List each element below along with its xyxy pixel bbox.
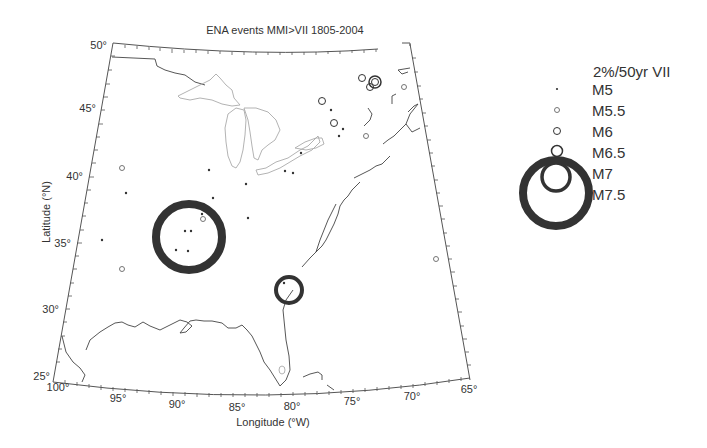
lat-label-50: 50°: [90, 39, 107, 51]
seismicity-map-figure: ENA events MMI>VII 1805-2004: [0, 0, 707, 448]
lon-label-75: 75°: [344, 395, 361, 407]
lon-label-80: 80°: [284, 400, 301, 412]
lat-label-35: 35°: [54, 237, 71, 249]
legend-symbols: [523, 88, 589, 226]
earthquake-events: [101, 75, 439, 304]
event-m7-charleston[interactable]: [276, 277, 302, 303]
event-m55[interactable]: [434, 257, 439, 262]
coastlines: [62, 57, 420, 390]
x-axis-title: Longitude (°W): [236, 416, 310, 428]
lon-label-70: 70°: [404, 390, 421, 402]
lon-label-95: 95°: [110, 392, 127, 404]
y-axis-title: Latitude (°N): [40, 181, 52, 243]
great-lakes: [178, 74, 324, 374]
event-m6[interactable]: [331, 120, 338, 127]
lon-label-100: 100°: [47, 381, 70, 393]
lon-label-90: 90°: [169, 398, 186, 410]
event-m6[interactable]: [319, 98, 326, 105]
legend-m55-symbol: [555, 108, 560, 113]
event-m55[interactable]: [120, 267, 125, 272]
legend-m75-symbol: [523, 160, 589, 226]
event-m55[interactable]: [364, 134, 369, 139]
lat-label-30: 30°: [42, 303, 59, 315]
event-m6[interactable]: [359, 75, 366, 82]
event-m75-new-madrid[interactable]: [156, 204, 222, 270]
lat-label-45: 45°: [79, 102, 96, 114]
map-frame: [53, 43, 470, 395]
lon-label-85: 85°: [229, 401, 246, 413]
legend-m6-symbol: [554, 128, 561, 135]
event-m5-dots: [101, 109, 344, 284]
legend-m5-symbol: [556, 88, 558, 90]
legend-m7-symbol: [542, 163, 570, 191]
lon-label-65: 65°: [461, 383, 478, 395]
event-m55[interactable]: [201, 217, 206, 222]
frame-ticks: [56, 45, 471, 397]
event-m55[interactable]: [402, 85, 407, 90]
event-m65[interactable]: [369, 76, 381, 88]
lat-label-40: 40°: [66, 170, 83, 182]
event-m55[interactable]: [120, 166, 125, 171]
legend-m65-symbol: [552, 146, 563, 157]
figure-title: ENA events MMI>VII 1805-2004: [206, 24, 363, 36]
